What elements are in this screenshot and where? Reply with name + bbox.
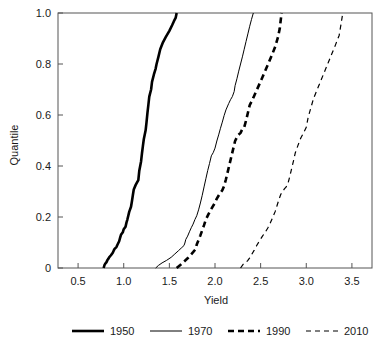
- x-tick-label: 2.0: [207, 275, 222, 287]
- y-tick-label: 0.4: [36, 160, 51, 172]
- x-tick-label: 3.5: [344, 275, 359, 287]
- x-tick-label: 0.5: [70, 275, 85, 287]
- y-tick-label: 0.6: [36, 109, 51, 121]
- x-tick-label: 3.0: [299, 275, 314, 287]
- x-tick-label: 2.5: [253, 275, 268, 287]
- legend-label-2010: 2010: [344, 325, 368, 337]
- y-tick-label: 0: [45, 262, 51, 274]
- legend-label-1950: 1950: [110, 325, 134, 337]
- x-axis-title: Yield: [204, 294, 228, 306]
- y-tick-label: 0.8: [36, 58, 51, 70]
- y-tick-label: 1.0: [36, 7, 51, 19]
- x-tick-label: 1.0: [116, 275, 131, 287]
- x-tick-label: 1.5: [162, 275, 177, 287]
- legend-label-1990: 1990: [266, 325, 290, 337]
- y-tick-label: 0.2: [36, 211, 51, 223]
- chart-canvas: 0.51.01.52.02.53.03.5 00.20.40.60.81.0 Y…: [0, 0, 384, 348]
- legend-label-1970: 1970: [188, 325, 212, 337]
- y-axis-title: Quantile: [8, 125, 20, 166]
- quantile-yield-chart: 0.51.01.52.02.53.03.5 00.20.40.60.81.0 Y…: [0, 0, 384, 348]
